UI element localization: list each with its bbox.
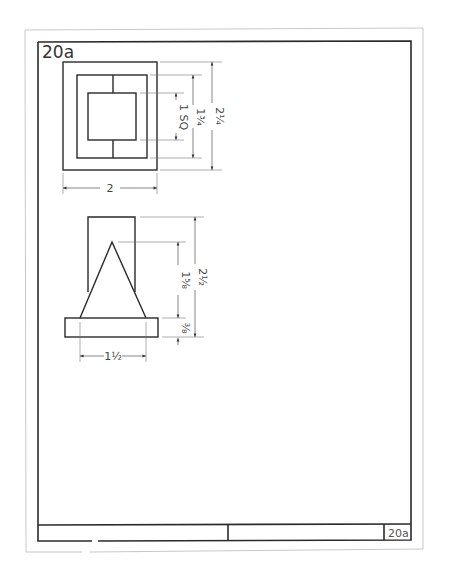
title-block: 20a bbox=[38, 524, 411, 540]
dim-width: 2 bbox=[107, 182, 114, 195]
front-view-triangle bbox=[80, 242, 146, 318]
dim-outer-height: 2¼ bbox=[213, 107, 226, 125]
front-view-dimensions: 1⅝ ⅜ 2½ 1½ bbox=[80, 217, 209, 363]
title-block-sheet-id: 20a bbox=[388, 527, 409, 540]
dim-base-span: 1½ bbox=[104, 350, 122, 363]
dim-base-thickness: ⅜ bbox=[179, 323, 192, 334]
top-view-inner-square bbox=[88, 93, 136, 140]
front-view-base bbox=[65, 318, 158, 337]
front-view bbox=[65, 217, 158, 337]
dim-triangle-height: 1⅝ bbox=[179, 271, 192, 289]
dim-inner-square: 1 SQ bbox=[177, 104, 190, 130]
sheet-id-label: 20a bbox=[42, 42, 74, 62]
dim-overall-height: 2½ bbox=[196, 268, 209, 286]
top-view bbox=[63, 62, 157, 170]
drawing-sheet: 20a 20a 1 SQ 1¾ 2¼ 2 bbox=[0, 0, 457, 577]
dim-middle-height: 1¾ bbox=[194, 108, 207, 126]
